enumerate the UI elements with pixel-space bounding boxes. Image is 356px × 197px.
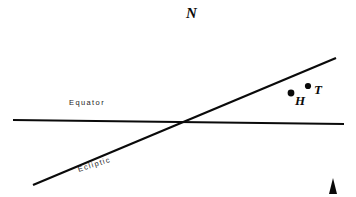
point-label-h: H	[295, 94, 305, 107]
arrow-up-icon	[329, 178, 337, 194]
point-marker-h	[288, 90, 295, 97]
equator-label: Equator	[69, 99, 105, 107]
point-marker-t	[305, 83, 311, 89]
north-pole-label: N	[186, 6, 197, 21]
point-label-t: T	[314, 83, 322, 96]
celestial-sphere-diagram: N Equator Ecliptic T H	[0, 0, 356, 197]
